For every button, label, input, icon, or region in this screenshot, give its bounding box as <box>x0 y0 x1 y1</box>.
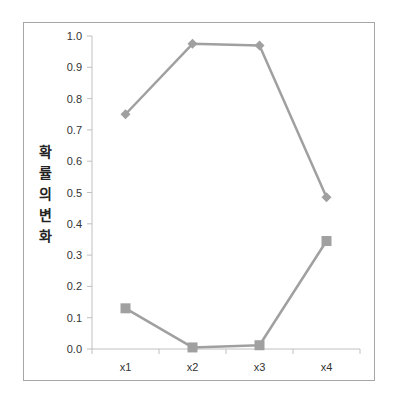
y-tick-label: 0.0 <box>67 343 82 355</box>
y-tick-label: 0.4 <box>67 218 82 230</box>
series-1-line <box>126 44 327 197</box>
diamond-marker <box>322 192 332 202</box>
y-tick-label: 0.6 <box>67 155 82 167</box>
y-tick-label: 0.8 <box>67 93 82 105</box>
square-marker <box>188 342 198 352</box>
square-marker <box>255 340 265 350</box>
x-tick-label: x4 <box>321 361 333 373</box>
y-tick-label: 0.9 <box>67 61 82 73</box>
square-marker <box>322 236 332 246</box>
y-tick-label: 0.2 <box>67 280 82 292</box>
line-chart-plot: 0.00.10.20.30.40.50.60.70.80.91.0x1x2x3x… <box>0 0 398 403</box>
y-tick-label: 0.5 <box>67 187 82 199</box>
y-tick-label: 0.3 <box>67 249 82 261</box>
x-tick-label: x1 <box>120 361 132 373</box>
x-tick-label: x3 <box>254 361 266 373</box>
y-tick-label: 0.7 <box>67 124 82 136</box>
square-marker <box>121 303 131 313</box>
x-tick-label: x2 <box>187 361 199 373</box>
series-2-line <box>126 241 327 347</box>
y-tick-label: 0.1 <box>67 312 82 324</box>
y-tick-label: 1.0 <box>67 30 82 42</box>
diamond-marker <box>255 40 265 50</box>
